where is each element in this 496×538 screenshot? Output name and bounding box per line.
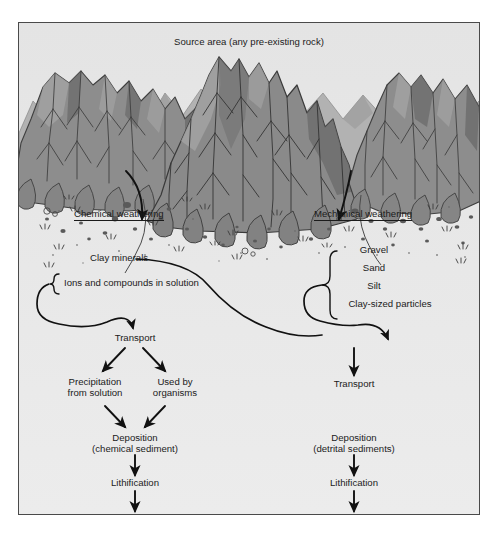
chemical-transport-label: Transport (115, 333, 156, 344)
diagram-title: Source area (any pre-existing rock) (174, 37, 324, 48)
chemical-sedimentary-rock-label: Chemical sedimentary rock (e.g., limesto… (77, 514, 193, 515)
chemical-deposition-label: Deposition (chemical sediment) (92, 433, 178, 454)
chemical-lithification-label: Lithification (111, 478, 159, 489)
precipitation-from-solution-label: Precipitation from solution (68, 377, 123, 398)
detrital-sedimentary-rocks-label: Detrital sedimentary rocks (e.g., sandst… (299, 514, 410, 515)
chemical-weathering-heading: Chemical weathering (74, 209, 164, 220)
diagram-frame: Source area (any pre-existing rock) Chem… (18, 22, 480, 515)
flowchart-connectors (19, 23, 479, 514)
arrow-transport-to-organisms (143, 348, 165, 371)
mechanical-weathering-heading: Mechanical weathering (314, 209, 412, 220)
arrow-transport-to-precipitation (103, 348, 125, 371)
detrital-size-gravel: Gravel (360, 245, 388, 256)
clay-minerals-label: Clay minerals (90, 253, 148, 264)
arrow-precipitation-to-deposition (105, 406, 125, 427)
clay-minerals-to-detrital-curve (136, 259, 322, 336)
detrital-transport-label: Transport (334, 379, 375, 390)
detrital-size-clay-particles: Clay-sized particles (348, 299, 431, 310)
detrital-lithification-label: Lithification (330, 478, 378, 489)
ions-brace (50, 274, 59, 294)
detrital-brace-to-transport (304, 285, 388, 339)
used-by-organisms-label: Used by organisms (153, 377, 197, 398)
detrital-sizes-brace (322, 251, 337, 319)
sedimentary-rock-cycle-diagram: Source area (any pre-existing rock) Chem… (0, 0, 496, 538)
arrow-organisms-to-deposition (145, 406, 165, 427)
ions-in-solution-label: Ions and compounds in solution (64, 278, 199, 289)
detrital-deposition-label: Deposition (detrital sediments) (313, 433, 395, 454)
ions-loop-to-transport (37, 284, 133, 328)
detrital-size-silt: Silt (367, 281, 380, 292)
detrital-size-sand: Sand (363, 263, 385, 274)
